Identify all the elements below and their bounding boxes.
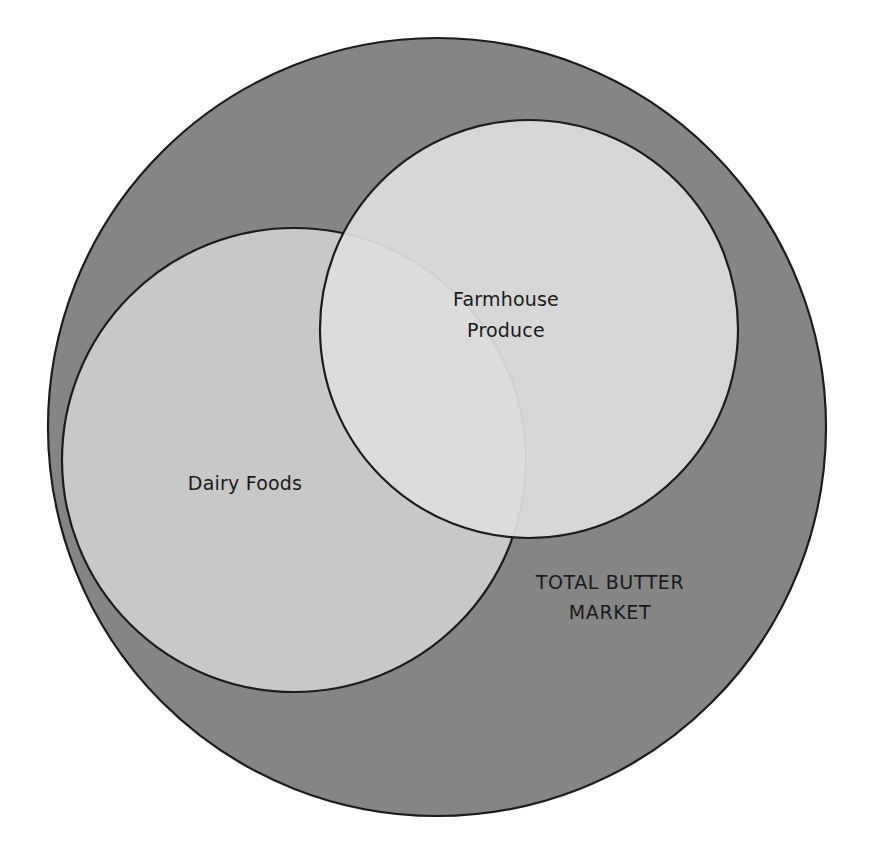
label-total-butter-market: TOTAL BUTTER [535,571,685,593]
label-farmhouse-produce-line2: Produce [467,319,545,341]
label-farmhouse-produce: Farmhouse [453,288,559,310]
venn-diagram-canvas: Farmhouse Produce Dairy Foods TOTAL BUTT… [0,0,882,860]
venn-diagram-svg: Farmhouse Produce Dairy Foods TOTAL BUTT… [0,0,882,860]
label-total-butter-market-line2: MARKET [569,601,651,623]
label-dairy-foods: Dairy Foods [188,472,302,494]
